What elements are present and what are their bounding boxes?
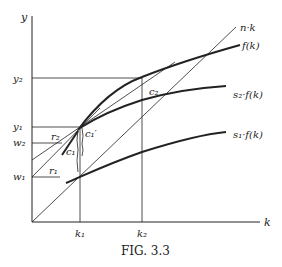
x-axis-label: k <box>264 216 271 229</box>
s1f-label: s₁·f(k) <box>233 129 263 140</box>
y-axis-label: y <box>20 11 28 24</box>
c1p-brace <box>82 128 83 156</box>
y1-label: y₁ <box>12 121 23 132</box>
c1-label: c₁ <box>66 146 76 157</box>
nk-label: n·k <box>240 22 256 33</box>
k2-label: k₂ <box>137 228 147 239</box>
y2-label: y₂ <box>12 73 23 84</box>
c1-brace <box>77 130 78 172</box>
f-label: f(k) <box>241 40 260 51</box>
nk-line <box>32 27 236 222</box>
k1-label: k₁ <box>75 228 85 239</box>
c2-label: c₂ <box>149 86 159 97</box>
w2-label: w₂ <box>13 137 26 148</box>
s2f-label: s₂·f(k) <box>233 89 263 100</box>
r1-label: r₁ <box>49 165 58 176</box>
w1-label: w₁ <box>13 171 26 182</box>
c1p-label: c₁′ <box>85 128 98 139</box>
growth-diagram: y k y₂ y₁ w₂ w₁ k₁ k₂ n·k f(k) s₂·f(k) s… <box>0 0 282 267</box>
s1f-curve <box>66 132 226 183</box>
r2-label: r₂ <box>51 131 60 142</box>
tangent-k2 <box>32 62 175 160</box>
figure-caption: FIG. 3.3 <box>121 244 170 258</box>
